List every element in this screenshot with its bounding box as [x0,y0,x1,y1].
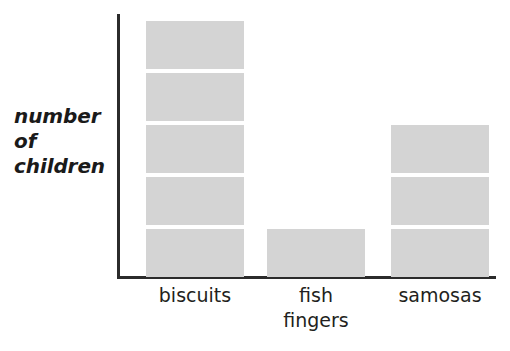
bar-biscuits [146,21,244,277]
x-axis-label-biscuits: biscuits [125,283,265,308]
bar-segment [146,73,244,121]
bar-samosas [391,125,489,277]
bar-segment [391,229,489,277]
plot-area [120,10,496,277]
x-axis-label-samosas: samosas [370,283,510,308]
bar-segment [146,21,244,69]
bar-segment [146,125,244,173]
bar-segment [391,177,489,225]
bar-segment [391,125,489,173]
bar-segment [267,229,365,277]
bar-segment [146,229,244,277]
bar-chart: number of children biscuitsfish fingerss… [0,0,510,351]
bar-segment [146,177,244,225]
bar-fish-fingers [267,229,365,277]
y-axis-label: number of children [14,104,114,179]
x-axis-label-fish-fingers: fish fingers [246,283,386,333]
